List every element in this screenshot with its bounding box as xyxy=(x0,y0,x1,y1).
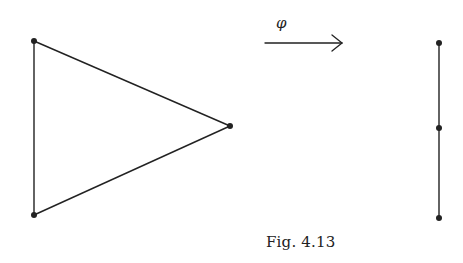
edge-ac xyxy=(34,41,230,126)
map-label-phi: φ xyxy=(276,14,287,32)
path-graph xyxy=(436,40,442,221)
vertex-c xyxy=(227,123,233,129)
figure-caption: Fig. 4.13 xyxy=(266,233,336,251)
map-arrow xyxy=(265,35,342,51)
edge-bc xyxy=(34,126,230,215)
vertex-p xyxy=(436,40,442,46)
triangle-graph xyxy=(31,38,233,218)
vertex-q xyxy=(436,125,442,131)
vertex-r xyxy=(436,215,442,221)
graph-homomorphism-figure xyxy=(0,0,463,263)
vertex-a xyxy=(31,38,37,44)
vertex-b xyxy=(31,212,37,218)
